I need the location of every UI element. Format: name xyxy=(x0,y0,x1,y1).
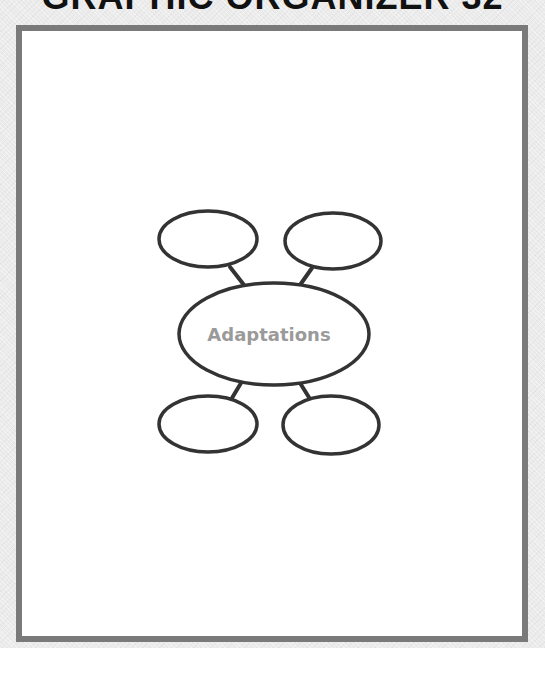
connector-bottom-left xyxy=(232,383,241,398)
connector-top-left xyxy=(230,267,244,285)
satellite-bubble-bottom-right[interactable] xyxy=(283,396,379,454)
concept-web-diagram: Adaptations xyxy=(0,0,545,675)
satellite-bubble-top-right[interactable] xyxy=(285,213,381,269)
satellite-bubble-top-left[interactable] xyxy=(159,211,257,267)
connector-top-right xyxy=(300,268,312,285)
satellite-bubble-bottom-left[interactable] xyxy=(159,396,257,452)
center-bubble-label: Adaptations xyxy=(207,324,330,345)
connector-bottom-right xyxy=(300,383,310,399)
